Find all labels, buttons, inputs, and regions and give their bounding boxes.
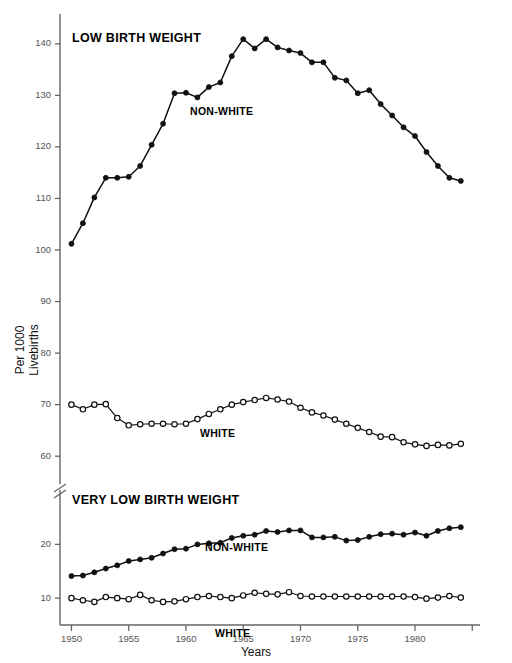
data-point xyxy=(103,594,108,599)
chart-figure: Per 1000 Livebirths Years 60708090100110… xyxy=(0,0,512,663)
data-point xyxy=(252,532,257,537)
y-tick-label-upper: 130 xyxy=(35,89,51,100)
data-point xyxy=(447,526,452,531)
data-point xyxy=(241,593,246,598)
y-tick-label-upper: 70 xyxy=(40,398,51,409)
x-tick-label: 1950 xyxy=(61,633,82,644)
data-point xyxy=(137,592,142,597)
data-point xyxy=(332,75,337,80)
data-point xyxy=(298,593,303,598)
data-point xyxy=(413,134,418,139)
data-point xyxy=(80,221,85,226)
data-point xyxy=(286,399,291,404)
data-point xyxy=(412,442,417,447)
data-point xyxy=(367,594,372,599)
data-point xyxy=(160,599,165,604)
data-point xyxy=(92,570,97,575)
y-tick-label-upper: 90 xyxy=(40,295,51,306)
data-point xyxy=(424,596,429,601)
data-point xyxy=(355,538,360,543)
y-tick-label-upper: 120 xyxy=(35,140,51,151)
data-point xyxy=(321,594,326,599)
data-point xyxy=(92,195,97,200)
data-point xyxy=(424,533,429,538)
data-point xyxy=(355,425,360,430)
data-point xyxy=(103,175,108,180)
data-point xyxy=(435,528,440,533)
data-point xyxy=(390,531,395,536)
data-point xyxy=(263,395,268,400)
y-tick-label-lower: 10 xyxy=(40,592,51,603)
series-line-lbw-white xyxy=(71,398,460,446)
data-point xyxy=(275,592,280,597)
data-point xyxy=(332,534,337,539)
data-point xyxy=(401,532,406,537)
data-point xyxy=(92,402,97,407)
data-point xyxy=(229,54,234,59)
data-point xyxy=(115,415,120,420)
data-point xyxy=(287,528,292,533)
data-point xyxy=(321,413,326,418)
data-point xyxy=(218,407,223,412)
series-markers-lbw-nonwhite xyxy=(69,37,463,247)
data-point xyxy=(137,422,142,427)
data-point xyxy=(286,590,291,595)
x-axis-title: Years xyxy=(241,645,271,659)
data-point xyxy=(401,125,406,130)
series-markers-lbw-white xyxy=(69,395,464,448)
x-tick-label: 1970 xyxy=(290,633,311,644)
data-point xyxy=(389,434,394,439)
data-point xyxy=(195,594,200,599)
panel-title-low-birth-weight: LOW BIRTH WEIGHT xyxy=(72,31,201,45)
data-point xyxy=(412,594,417,599)
data-point xyxy=(390,113,395,118)
data-point xyxy=(80,573,85,578)
data-point xyxy=(413,530,418,535)
data-point xyxy=(183,546,188,551)
data-point xyxy=(275,45,280,50)
data-point xyxy=(172,599,177,604)
data-point xyxy=(115,595,120,600)
data-point xyxy=(218,594,223,599)
data-point xyxy=(309,60,314,65)
data-point xyxy=(115,563,120,568)
x-tick-label: 1960 xyxy=(175,633,196,644)
data-point xyxy=(298,528,303,533)
data-point xyxy=(263,591,268,596)
data-point xyxy=(206,593,211,598)
data-point xyxy=(241,399,246,404)
data-point xyxy=(378,434,383,439)
data-point xyxy=(69,402,74,407)
series-line-lbw-nonwhite xyxy=(71,39,460,244)
data-point xyxy=(69,595,74,600)
series-markers-vlbw-white xyxy=(69,590,464,605)
x-tick-label: 1975 xyxy=(347,633,368,644)
data-point xyxy=(161,121,166,126)
data-point xyxy=(378,102,383,107)
data-point xyxy=(195,416,200,421)
data-point xyxy=(183,597,188,602)
y-tick-label-lower: 20 xyxy=(40,538,51,549)
data-point xyxy=(401,594,406,599)
data-point xyxy=(447,175,452,180)
data-point xyxy=(103,566,108,571)
data-point xyxy=(172,547,177,552)
data-point xyxy=(252,397,257,402)
data-point xyxy=(321,60,326,65)
y-axis-title: Per 1000 Livebirths xyxy=(13,324,41,375)
data-point xyxy=(298,405,303,410)
data-point xyxy=(172,91,177,96)
data-point xyxy=(332,417,337,422)
x-tick-label: 1980 xyxy=(404,633,425,644)
data-point xyxy=(367,88,372,93)
panel-title-very-low-birth-weight: VERY LOW BIRTH WEIGHT xyxy=(72,493,239,507)
data-point xyxy=(195,542,200,547)
data-point xyxy=(401,440,406,445)
data-point xyxy=(218,80,223,85)
data-point xyxy=(161,551,166,556)
series-label-upper-white: WHITE xyxy=(200,427,235,439)
data-point xyxy=(138,163,143,168)
data-point xyxy=(275,397,280,402)
data-point xyxy=(229,535,234,540)
data-point xyxy=(183,421,188,426)
